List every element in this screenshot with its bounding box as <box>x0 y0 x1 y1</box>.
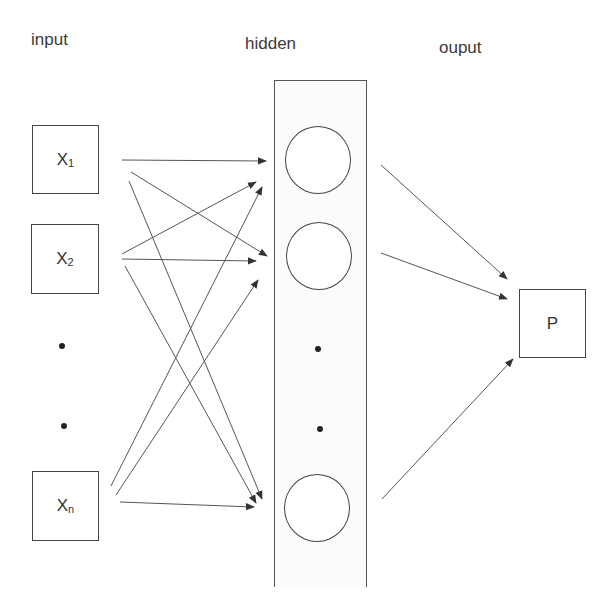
edge-xn-hn <box>120 502 254 507</box>
connection-arrows <box>0 0 616 612</box>
edge-xn-h1 <box>111 187 262 486</box>
edge-xn-h2 <box>116 280 258 495</box>
edge-x1-h1 <box>122 160 266 161</box>
edge-h2-p <box>381 253 507 299</box>
edge-x2-hn <box>125 266 256 503</box>
edge-x2-h1 <box>122 182 256 254</box>
edge-x1-h2 <box>131 172 267 256</box>
edge-h1-p <box>381 165 507 279</box>
neural-network-diagram: input hidden ouput X1 X2 Xn P <box>0 0 616 612</box>
edge-x2-h2 <box>122 259 256 261</box>
edge-x1-hn <box>129 181 262 499</box>
edge-hn-p <box>382 359 513 499</box>
